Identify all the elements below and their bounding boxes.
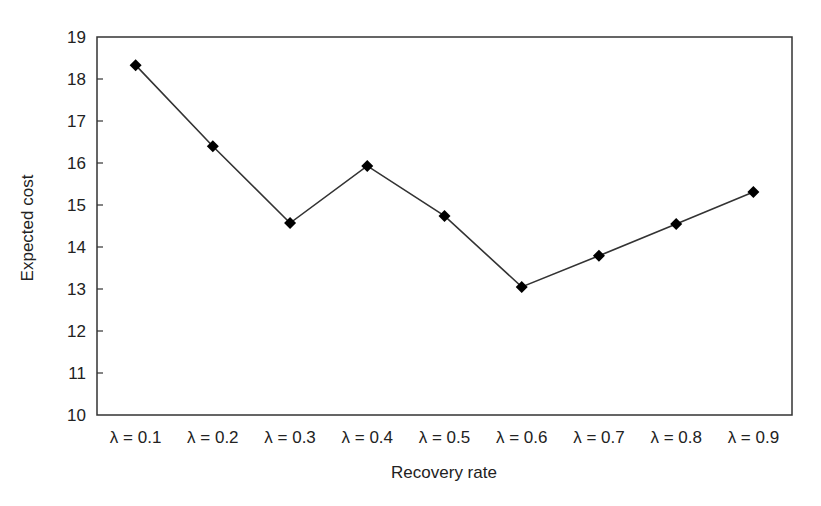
y-tick-label: 13 [67, 280, 86, 299]
x-axis-label: Recovery rate [391, 463, 497, 483]
x-tick-label: λ = 0.1 [110, 428, 162, 447]
y-tick-label: 18 [67, 70, 86, 89]
y-tick-label: 16 [67, 154, 86, 173]
y-tick-label: 17 [67, 112, 86, 131]
x-tick-label: λ = 0.5 [419, 428, 471, 447]
diamond-marker [747, 186, 759, 198]
y-tick-label: 19 [67, 28, 86, 47]
y-tick-label: 10 [67, 406, 86, 425]
x-tick-label: λ = 0.3 [264, 428, 316, 447]
plot-frame [97, 37, 792, 415]
diamond-marker [670, 218, 682, 230]
diamond-marker [593, 250, 605, 262]
y-axis-label: Expected cost [18, 175, 38, 282]
x-tick-label: λ = 0.6 [496, 428, 548, 447]
data-line [136, 65, 754, 287]
y-tick-label: 14 [67, 238, 86, 257]
y-tick-label: 15 [67, 196, 86, 215]
line-chart: 10111213141516171819λ = 0.1λ = 0.2λ = 0.… [0, 0, 821, 506]
y-tick-label: 11 [68, 364, 86, 383]
diamond-marker [361, 160, 373, 172]
x-tick-label: λ = 0.2 [187, 428, 239, 447]
x-tick-label: λ = 0.4 [342, 428, 394, 447]
y-tick-label: 12 [67, 322, 86, 341]
x-tick-label: λ = 0.7 [573, 428, 625, 447]
x-tick-label: λ = 0.9 [728, 428, 780, 447]
chart-canvas: 10111213141516171819λ = 0.1λ = 0.2λ = 0.… [0, 0, 821, 506]
x-tick-label: λ = 0.8 [650, 428, 702, 447]
